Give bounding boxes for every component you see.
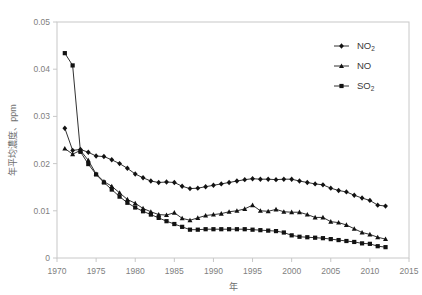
data-point-square: [125, 201, 129, 205]
data-point-diamond: [211, 183, 216, 188]
data-point-square: [305, 235, 309, 239]
data-point-triangle: [62, 146, 67, 151]
y-tick-label: 0.05: [33, 17, 50, 27]
data-point-diamond: [383, 203, 388, 208]
y-tick-label: 0.03: [33, 111, 50, 121]
data-point-diamond: [203, 184, 208, 189]
data-point-square: [337, 238, 341, 242]
y-tick-label: 0.01: [33, 206, 50, 216]
data-point-diamond: [352, 193, 357, 198]
data-point-diamond: [86, 150, 91, 155]
data-point-square: [274, 229, 278, 233]
data-point-square: [219, 227, 223, 231]
data-point-square: [313, 236, 317, 240]
data-point-square: [102, 180, 106, 184]
data-point-diamond: [188, 186, 193, 191]
data-point-diamond: [141, 175, 146, 180]
y-tick-label: 0: [45, 253, 50, 263]
data-point-diamond: [375, 202, 380, 207]
series-line-SO2: [65, 53, 386, 247]
legend-item-NO[interactable]: NO: [334, 60, 371, 71]
chart-container: 00.010.020.030.040.051970197519801985199…: [0, 0, 422, 295]
data-point-square: [133, 205, 137, 209]
data-point-diamond: [297, 178, 302, 183]
data-point-square: [63, 51, 67, 55]
data-point-diamond: [109, 157, 114, 162]
legend-item-SO2[interactable]: SO2: [334, 80, 375, 92]
data-point-diamond: [235, 178, 240, 183]
legend-subscript-NO2: 2: [371, 44, 375, 51]
data-point-diamond: [258, 176, 263, 181]
data-point-square: [266, 229, 270, 233]
data-point-diamond: [344, 189, 349, 194]
x-tick-label: 1970: [48, 266, 67, 276]
data-point-square: [368, 242, 372, 246]
data-point-triangle: [172, 210, 177, 215]
data-point-diamond: [148, 178, 153, 183]
x-tick-label: 1995: [243, 266, 262, 276]
data-point-diamond: [102, 154, 107, 159]
data-point-diamond: [172, 180, 177, 185]
legend-label-SO2: SO2: [357, 80, 375, 92]
data-point-diamond: [94, 153, 99, 158]
data-point-diamond: [289, 176, 294, 181]
data-point-triangle: [352, 226, 357, 231]
data-point-diamond: [219, 181, 224, 186]
series-line-NO: [65, 149, 386, 240]
x-tick-label: 2005: [321, 266, 340, 276]
data-point-diamond: [125, 166, 130, 171]
y-axis-title: 年平均濃度、ppm: [7, 104, 18, 176]
data-point-square: [376, 244, 380, 248]
legend-label-NO2: NO2: [357, 40, 375, 52]
x-tick-label: 1980: [126, 266, 145, 276]
data-point-square: [321, 236, 325, 240]
data-point-diamond: [321, 182, 326, 187]
data-point-diamond: [266, 176, 271, 181]
data-point-triangle: [328, 219, 333, 224]
data-point-square: [290, 233, 294, 237]
plot-area-border: [57, 22, 409, 258]
data-point-diamond: [180, 184, 185, 189]
x-axis-title: 年: [229, 281, 238, 292]
legend-subscript-SO2: 2: [371, 84, 375, 91]
data-point-square: [188, 228, 192, 232]
data-point-triangle: [274, 207, 279, 212]
data-point-square: [172, 222, 176, 226]
legend-item-NO2[interactable]: NO2: [334, 40, 375, 52]
data-point-diamond: [281, 176, 286, 181]
data-point-diamond: [336, 188, 341, 193]
data-point-square: [282, 230, 286, 234]
data-point-diamond: [250, 176, 255, 181]
data-point-diamond: [367, 198, 372, 203]
x-tick-label: 1975: [87, 266, 106, 276]
data-point-diamond: [227, 180, 232, 185]
data-point-diamond: [195, 185, 200, 190]
data-point-square: [141, 209, 145, 213]
data-point-square: [383, 245, 387, 249]
data-point-square: [94, 172, 98, 176]
data-point-diamond: [133, 171, 138, 176]
data-point-square: [339, 84, 343, 88]
series-NO2: [62, 126, 388, 209]
data-point-diamond: [242, 177, 247, 182]
data-point-square: [211, 227, 215, 231]
y-tick-label: 0.02: [33, 159, 50, 169]
data-point-square: [352, 240, 356, 244]
data-point-diamond: [328, 185, 333, 190]
data-point-square: [344, 239, 348, 243]
data-point-diamond: [305, 180, 310, 185]
data-point-square: [71, 63, 75, 67]
data-point-square: [149, 212, 153, 216]
x-tick-label: 1985: [165, 266, 184, 276]
data-point-square: [360, 241, 364, 245]
data-point-diamond: [339, 43, 344, 48]
data-point-square: [117, 195, 121, 199]
data-point-triangle: [242, 206, 247, 211]
data-point-diamond: [117, 161, 122, 166]
data-point-diamond: [164, 179, 169, 184]
series-line-NO2: [65, 128, 386, 206]
data-point-square: [235, 227, 239, 231]
series-SO2: [63, 51, 388, 249]
x-tick-label: 2015: [400, 266, 419, 276]
data-point-triangle: [133, 201, 138, 206]
